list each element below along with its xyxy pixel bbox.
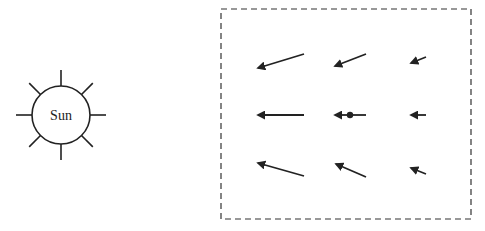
field-arrow — [258, 163, 304, 176]
field-arrows — [258, 54, 426, 177]
sun: Sun — [16, 70, 106, 160]
sun-ray — [82, 83, 93, 94]
sun-label: Sun — [50, 108, 72, 123]
sun-field-diagram: Sun — [0, 0, 485, 231]
field-arrow — [258, 54, 304, 68]
field-arrow — [411, 57, 426, 63]
field-box — [221, 9, 471, 219]
sun-ray — [29, 83, 40, 94]
sun-ray — [82, 136, 93, 147]
reference-point-dot — [347, 112, 353, 118]
field-arrow — [335, 54, 366, 66]
field-arrow — [336, 164, 366, 177]
sun-ray — [29, 136, 40, 147]
field-arrow — [411, 168, 426, 174]
